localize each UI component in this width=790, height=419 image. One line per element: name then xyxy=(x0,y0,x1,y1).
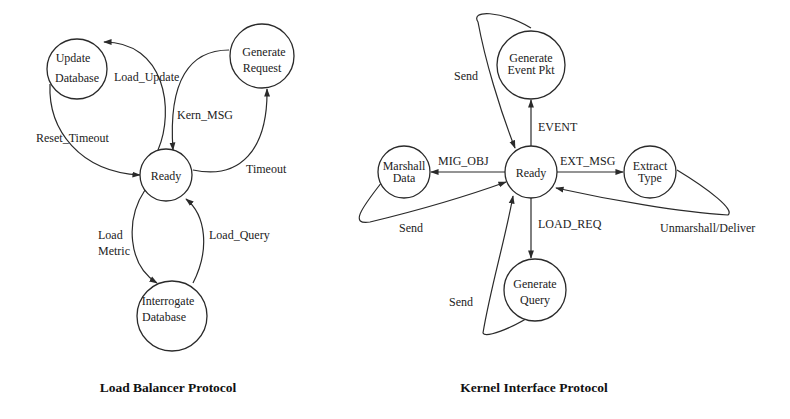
edge-timeout xyxy=(193,89,267,172)
node-label: Ready xyxy=(151,169,182,183)
edge-load-query xyxy=(186,199,204,283)
diagram-title-load-balancer: Load Balancer Protocol xyxy=(100,380,237,395)
node-marshall-data: Marshall Data xyxy=(378,146,430,198)
protocol-diagrams: Update Database Generate Request Ready I… xyxy=(0,0,790,419)
node-label: Query xyxy=(520,293,550,307)
edge-label-timeout: Timeout xyxy=(246,162,287,176)
node-label: Generate xyxy=(242,45,285,59)
edge-label-mig-obj: MIG_OBJ xyxy=(438,154,489,168)
edge-label-reset-timeout: Reset_Timeout xyxy=(36,131,110,145)
node-generate-query: Generate Query xyxy=(504,259,566,321)
node-label: Event Pkt xyxy=(508,63,556,77)
node-label: Request xyxy=(243,61,282,75)
edge-label-load-metric: Load xyxy=(98,228,123,242)
load-balancer-diagram: Update Database Generate Request Ready I… xyxy=(36,24,294,395)
edge-load-update xyxy=(104,42,165,150)
diagram-title-kernel-interface: Kernel Interface Protocol xyxy=(460,380,608,395)
edge-label-kern-msg: Kern_MSG xyxy=(177,108,233,122)
node-label: Update xyxy=(56,51,91,65)
node-label: Ready xyxy=(516,166,547,180)
edge-send-marshall xyxy=(359,182,506,222)
edge-label-load-query: Load_Query xyxy=(209,228,270,242)
node-ready-lb: Ready xyxy=(140,149,192,201)
edge-load-metric xyxy=(132,190,157,283)
node-generate-request: Generate Request xyxy=(230,24,294,88)
node-label: Generate xyxy=(513,277,556,291)
edge-label-send: Send xyxy=(449,295,473,309)
node-generate-event-pkt: Generate Event Pkt xyxy=(497,31,565,99)
node-label: Data xyxy=(393,171,416,185)
node-interrogate-database: Interrogate Database xyxy=(137,281,207,351)
edge-label-load-req: LOAD_REQ xyxy=(538,217,602,231)
node-update-database: Update Database xyxy=(47,39,107,99)
edge-label-event: EVENT xyxy=(538,120,578,134)
node-ready-ki: Ready xyxy=(505,146,557,198)
edge-label-send: Send xyxy=(399,221,423,235)
edge-kern-msg xyxy=(172,50,229,150)
node-label: Type xyxy=(638,171,662,185)
node-label: Database xyxy=(142,310,186,324)
kernel-interface-diagram: Ready Generate Event Pkt Marshall Data E… xyxy=(359,14,755,395)
edge-label-load-update: Load_Update xyxy=(114,70,179,84)
node-label: Interrogate xyxy=(142,294,195,308)
node-label: Database xyxy=(55,71,99,85)
edge-reset-timeout xyxy=(50,84,140,175)
edge-label-send: Send xyxy=(454,69,478,83)
edge-label-load-metric: Metric xyxy=(98,244,130,258)
edge-label-unmarshall-deliver: Unmarshall/Deliver xyxy=(660,221,755,235)
node-extract-type: Extract Type xyxy=(624,146,676,198)
edge-label-ext-msg: EXT_MSG xyxy=(560,154,616,168)
